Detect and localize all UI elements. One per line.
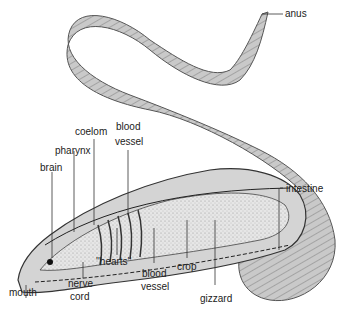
label-blood-vessel-bottom-1: blood — [142, 268, 166, 279]
label-nerve-cord-1: nerve — [68, 278, 93, 289]
label-coelom: coelom — [75, 126, 107, 137]
label-blood-vessel-bottom-2: vessel — [141, 281, 169, 292]
brain-node — [47, 259, 53, 265]
label-blood-vessel-top-2: vessel — [115, 136, 143, 147]
earthworm-diagram: anus coelom blood vessel pharynx brain i… — [0, 0, 348, 321]
label-blood-vessel-top-1: blood — [116, 121, 140, 132]
label-brain: brain — [40, 162, 62, 173]
label-hearts: ''hearts'' — [96, 256, 131, 267]
label-intestine: intestine — [286, 183, 323, 194]
label-mouth: mouth — [9, 287, 37, 298]
label-nerve-cord-2: cord — [70, 291, 89, 302]
earthworm-illustration — [0, 0, 348, 321]
label-pharynx: pharynx — [55, 145, 91, 156]
label-anus: anus — [285, 8, 307, 19]
label-gizzard: gizzard — [200, 293, 232, 304]
label-crop: crop — [177, 261, 196, 272]
